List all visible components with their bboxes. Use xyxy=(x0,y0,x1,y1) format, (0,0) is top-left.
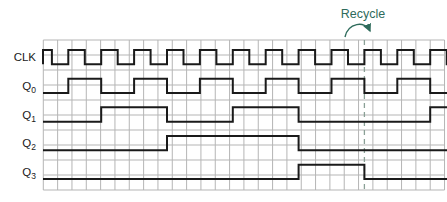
clk-label: CLK xyxy=(14,51,37,63)
timing-diagram: CLKQ0Q1Q2Q3 Recycle xyxy=(0,0,447,202)
background-grid xyxy=(43,40,444,190)
q1-label: Q1 xyxy=(22,109,36,124)
recycle-label: Recycle xyxy=(341,7,386,21)
q0-waveform xyxy=(43,79,447,93)
q3-waveform xyxy=(43,165,447,179)
q2-waveform xyxy=(43,136,447,150)
clk-waveform xyxy=(43,50,447,64)
q0-label: Q0 xyxy=(22,80,36,95)
signal-labels: CLKQ0Q1Q2Q3 xyxy=(14,51,37,181)
recycle-arrow-icon xyxy=(345,24,370,37)
q2-label: Q2 xyxy=(22,137,36,152)
q3-label: Q3 xyxy=(22,166,36,181)
